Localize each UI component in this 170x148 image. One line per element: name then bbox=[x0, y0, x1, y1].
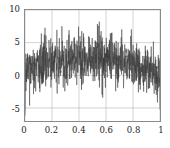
caption-fragment-strip bbox=[0, 143, 170, 148]
figure-container: -50510 00.20.40.60.81 bbox=[0, 0, 170, 148]
x-tick-label: 0 bbox=[21, 126, 26, 135]
x-tick-label: 0.4 bbox=[72, 126, 86, 135]
x-tick-label: 0.8 bbox=[127, 126, 141, 135]
x-tick-label: 0.2 bbox=[45, 126, 59, 135]
x-tick-label: 0.6 bbox=[99, 126, 113, 135]
x-axis-tick-labels: 00.20.40.60.81 bbox=[0, 0, 170, 148]
x-tick-label: 1 bbox=[158, 126, 163, 135]
